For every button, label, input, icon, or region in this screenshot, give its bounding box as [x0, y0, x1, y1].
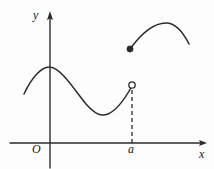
y-axis [47, 11, 53, 168]
open-circle-marker [129, 82, 135, 88]
filled-dot-marker [127, 46, 133, 52]
curve-left-branch [24, 67, 132, 115]
figure-canvas: y x O a [0, 0, 214, 169]
y-axis-label: y [33, 9, 38, 21]
x-tick-label-a: a [128, 143, 134, 155]
curve-right-branch [130, 23, 189, 49]
x-axis-label: x [199, 148, 204, 160]
origin-label: O [32, 143, 41, 155]
